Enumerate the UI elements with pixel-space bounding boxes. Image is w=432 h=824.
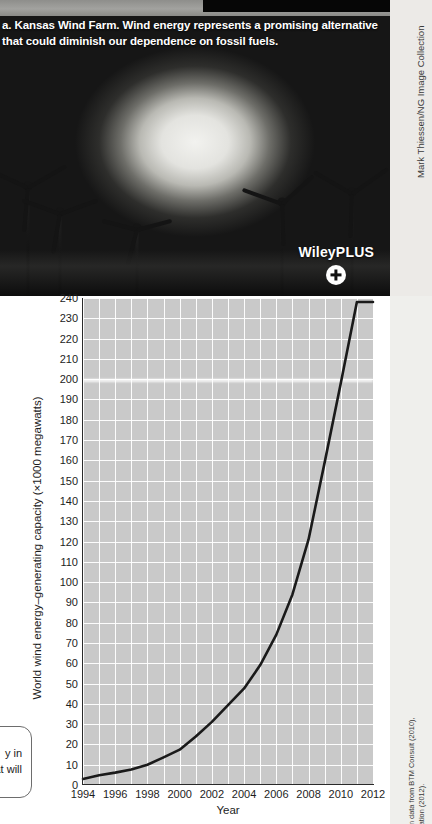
wileyplus-label: WileyPLUS	[298, 244, 374, 260]
y-tick-label: 110	[12, 556, 78, 568]
y-tick-label: 40	[12, 698, 78, 710]
y-tick-label: 240	[12, 292, 78, 304]
callout-line-1: y in	[0, 745, 22, 761]
x-tick-label: 1994	[71, 788, 95, 800]
x-tick-label: 2002	[200, 788, 224, 800]
wind-capacity-chart: 0102030405060708090100110120130140150160…	[0, 296, 390, 824]
callout-box: y in at will	[0, 726, 32, 798]
y-tick-label: 60	[12, 657, 78, 669]
wileyplus-badge[interactable]: WileyPLUS	[298, 244, 374, 285]
y-tick-label: 100	[12, 576, 78, 588]
photo-credit-rail: Mark Thiessen/NG Image Collection	[390, 0, 432, 296]
y-tick-label: 210	[12, 353, 78, 365]
x-axis-line	[82, 784, 374, 785]
chart-series-line	[83, 298, 373, 785]
x-tick-label: 2000	[167, 788, 191, 800]
y-tick-label: 170	[12, 434, 78, 446]
y-tick-label: 230	[12, 312, 78, 324]
x-tick-label: 2006	[264, 788, 288, 800]
x-tick-label: 1998	[135, 788, 159, 800]
y-tick-label: 130	[12, 515, 78, 527]
y-tick-label: 150	[12, 475, 78, 487]
figure-photo: a. Kansas Wind Farm. Wind energy represe…	[0, 0, 390, 296]
plus-circle-icon[interactable]	[326, 265, 346, 285]
y-tick-label: 160	[12, 454, 78, 466]
y-tick-label: 180	[12, 414, 78, 426]
page-top-black-bar	[203, 0, 390, 12]
y-axis-line	[82, 298, 83, 785]
y-tick-label: 120	[12, 536, 78, 548]
x-tick-label: 2008	[296, 788, 320, 800]
y-axis-ticks: 0102030405060708090100110120130140150160…	[10, 296, 78, 788]
photo-credit-text: Mark Thiessen/NG Image Collection	[415, 26, 426, 178]
x-tick-label: 2004	[232, 788, 256, 800]
y-tick-label: 70	[12, 637, 78, 649]
figure-caption: a. Kansas Wind Farm. Wind energy represe…	[0, 18, 378, 49]
chart-credit-rail: From Vital Signs 2005, Worldwatch Instit…	[390, 296, 432, 824]
y-tick-label: 90	[12, 596, 78, 608]
chart-source-line-2: American Wind Energy Association (2012),…	[417, 784, 426, 824]
x-tick-label: 2012	[361, 788, 385, 800]
y-tick-label: 220	[12, 333, 78, 345]
x-axis-title: Year	[83, 804, 373, 816]
y-tick-label: 140	[12, 495, 78, 507]
y-tick-label: 50	[12, 678, 78, 690]
x-tick-label: 1996	[103, 788, 127, 800]
plot-area	[83, 298, 373, 785]
y-axis-title: World wind energy–generating capacity (×…	[31, 393, 43, 703]
callout-line-2: at will	[0, 761, 22, 777]
y-tick-label: 190	[12, 393, 78, 405]
y-tick-label: 200	[12, 373, 78, 385]
x-tick-label: 2010	[329, 788, 353, 800]
y-tick-label: 80	[12, 617, 78, 629]
chart-source-line-1: From Vital Signs 2005, Worldwatch Instit…	[407, 718, 416, 824]
